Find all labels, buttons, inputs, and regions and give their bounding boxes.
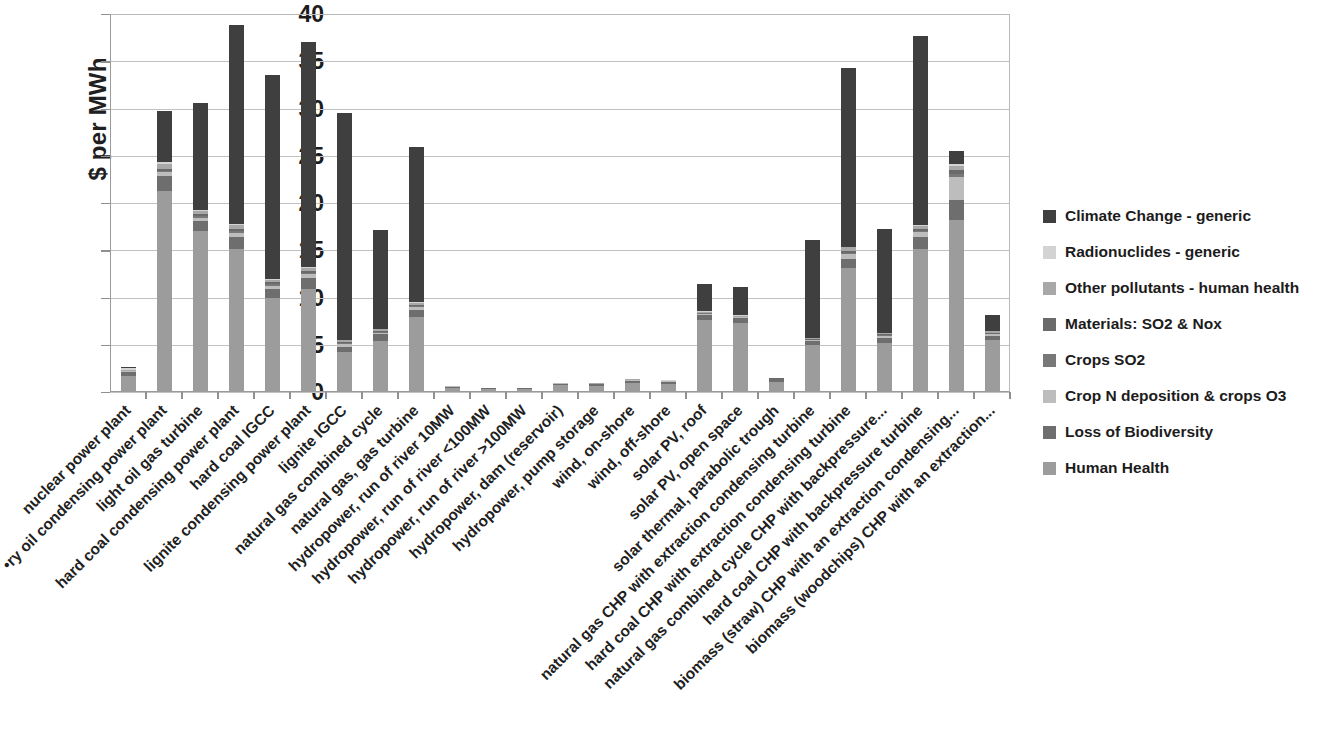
bar-slot bbox=[146, 14, 182, 392]
bar-segment bbox=[409, 317, 424, 392]
x-tick-mark bbox=[649, 392, 650, 399]
x-tick-mark bbox=[613, 392, 614, 399]
x-tick-label-text: biomass (straw) CHP with an extraction c… bbox=[671, 402, 961, 692]
bar-segment bbox=[661, 384, 676, 392]
bar-segment bbox=[157, 111, 172, 162]
y-tick-mark bbox=[101, 61, 110, 62]
bar-segment bbox=[697, 284, 712, 311]
x-tick-label: light oil gas turbine bbox=[93, 402, 205, 514]
legend-item[interactable]: Radionuclides - generic bbox=[1043, 234, 1333, 270]
stacked-bar[interactable] bbox=[589, 383, 604, 392]
x-tick-label-text: nuclear power plant bbox=[19, 402, 133, 516]
legend-label: Climate Change - generic bbox=[1065, 208, 1251, 224]
stacked-bar[interactable] bbox=[265, 75, 280, 392]
legend-item[interactable]: Climate Change - generic bbox=[1043, 198, 1333, 234]
x-tick-label-text: hard coal IGCC bbox=[187, 402, 277, 492]
stacked-bar[interactable] bbox=[121, 367, 136, 392]
stacked-bar[interactable] bbox=[445, 386, 460, 392]
x-tick-label-text: hard coal condensing power plant bbox=[53, 402, 242, 591]
x-tick-label: lignite condensing power plant bbox=[141, 402, 313, 574]
legend-item[interactable]: Other pollutants - human health bbox=[1043, 270, 1333, 306]
bar-segment bbox=[409, 147, 424, 302]
bar-slot bbox=[218, 14, 254, 392]
bar-slot bbox=[866, 14, 902, 392]
x-tick-mark bbox=[361, 392, 362, 399]
bar-segment bbox=[265, 298, 280, 393]
legend-item[interactable]: Human Health bbox=[1043, 450, 1333, 486]
bar-segment bbox=[121, 376, 136, 392]
x-tick-label: solar thermal, parabolic trough bbox=[609, 402, 781, 574]
stacked-bar[interactable] bbox=[409, 147, 424, 392]
stacked-bar[interactable] bbox=[985, 315, 1000, 392]
x-tick-label-text: lignite IGCC bbox=[276, 402, 350, 476]
x-tick-label-text: hydropower, run of river >100MW bbox=[345, 402, 529, 586]
bar-segment bbox=[481, 389, 496, 392]
plot-area bbox=[110, 14, 1010, 392]
x-tick-label: •ry oil condensing power plant bbox=[0, 402, 169, 572]
bar-segment bbox=[733, 323, 748, 392]
stacked-bar[interactable] bbox=[733, 287, 748, 392]
x-tick-label-text: hydropower, pump storage bbox=[450, 402, 602, 554]
bar-slot bbox=[902, 14, 938, 392]
stacked-bar[interactable] bbox=[661, 380, 676, 392]
x-tick-label: natural gas combined cycle CHP with back… bbox=[600, 402, 889, 691]
bar-slot bbox=[614, 14, 650, 392]
stacked-bar[interactable] bbox=[841, 68, 856, 392]
x-tick-label-text: natural gas, gas turbine bbox=[287, 402, 422, 537]
legend-label: Crops SO2 bbox=[1065, 352, 1145, 368]
legend-label: Crop N deposition & crops O3 bbox=[1065, 388, 1286, 404]
legend-swatch-icon bbox=[1043, 282, 1056, 295]
bar-segment bbox=[193, 231, 208, 392]
bar-segment bbox=[805, 345, 820, 392]
stacked-bar[interactable] bbox=[481, 388, 496, 392]
stacked-bar[interactable] bbox=[949, 151, 964, 392]
legend-label: Radionuclides - generic bbox=[1065, 244, 1240, 260]
legend-swatch-icon bbox=[1043, 354, 1056, 367]
bar-segment bbox=[517, 389, 532, 392]
bar-segment bbox=[157, 176, 172, 191]
x-tick-label: wind, off-shore bbox=[584, 402, 674, 492]
bar-slot bbox=[722, 14, 758, 392]
stacked-bar[interactable] bbox=[193, 103, 208, 392]
x-tick-label-text: hydropower, run of river <100MW bbox=[309, 402, 493, 586]
stacked-bar[interactable] bbox=[373, 230, 388, 392]
bar-segment bbox=[733, 287, 748, 315]
bar-segment bbox=[877, 229, 892, 333]
bar-segment bbox=[805, 240, 820, 337]
stacked-bar[interactable] bbox=[805, 240, 820, 392]
bar-segment bbox=[193, 103, 208, 210]
x-tick-label: solar PV, roof bbox=[628, 402, 709, 483]
x-tick-mark bbox=[145, 392, 146, 399]
x-tick-mark bbox=[865, 392, 866, 399]
bar-slot bbox=[578, 14, 614, 392]
bar-segment bbox=[625, 383, 640, 392]
stacked-bar[interactable] bbox=[301, 42, 316, 392]
y-tick-mark bbox=[101, 156, 110, 157]
stacked-bar[interactable] bbox=[157, 111, 172, 392]
stacked-bar[interactable] bbox=[553, 383, 568, 392]
stacked-bar[interactable] bbox=[517, 388, 532, 392]
y-tick-mark bbox=[101, 298, 110, 299]
x-tick-mark bbox=[973, 392, 974, 399]
x-tick-label-text: hydropower, dam (reservoir) bbox=[407, 402, 566, 561]
x-tick-label-text: natural gas combined cycle bbox=[231, 402, 386, 557]
x-tick-label-text: natural gas combined cycle CHP with back… bbox=[600, 402, 889, 691]
legend-item[interactable]: Materials: SO2 & Nox bbox=[1043, 306, 1333, 342]
legend-item[interactable]: Crop N deposition & crops O3 bbox=[1043, 378, 1333, 414]
stacked-bar[interactable] bbox=[337, 113, 352, 392]
stacked-bar[interactable] bbox=[769, 378, 784, 392]
bar-slot bbox=[650, 14, 686, 392]
stacked-bar[interactable] bbox=[697, 284, 712, 392]
stacked-bar[interactable] bbox=[625, 379, 640, 392]
bar-segment bbox=[769, 382, 784, 392]
bar-series-layer bbox=[110, 14, 1010, 392]
stacked-bar[interactable] bbox=[913, 36, 928, 392]
stacked-bar[interactable] bbox=[229, 25, 244, 392]
legend-item[interactable]: Loss of Biodiversity bbox=[1043, 414, 1333, 450]
legend-item[interactable]: Crops SO2 bbox=[1043, 342, 1333, 378]
x-tick-mark bbox=[685, 392, 686, 399]
x-tick-mark bbox=[541, 392, 542, 399]
stacked-bar[interactable] bbox=[877, 229, 892, 392]
bar-segment bbox=[229, 25, 244, 224]
bar-slot bbox=[110, 14, 146, 392]
